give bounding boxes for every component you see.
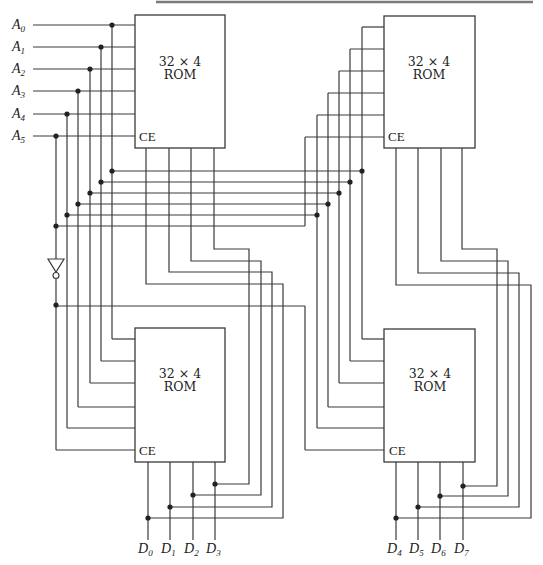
rom-top-left-type: ROM: [164, 67, 197, 82]
rom-top-left-ce-label: CE: [139, 129, 156, 144]
rom-bottom-left-ce-label: CE: [139, 443, 156, 458]
rom-top-left: 32 × 4 ROM CE: [135, 15, 225, 148]
address-labels: A0 A1 A2 A3 A4 A5: [11, 17, 26, 145]
bottom-left-rom-output-wires: [148, 462, 215, 540]
bottom-right-rom-output-wires: [396, 462, 463, 540]
rom-top-right-ce-label: CE: [388, 129, 405, 144]
bottom-left-rom-input-wires: [56, 339, 135, 450]
right-address-bus: [305, 27, 362, 450]
label-a2: A2: [11, 61, 26, 78]
label-a5: A5: [11, 128, 26, 145]
rom-expansion-diagram: A0 A1 A2 A3 A4 A5: [0, 0, 543, 565]
rom-bottom-right-type: ROM: [414, 379, 447, 394]
label-d7: D7: [453, 541, 469, 558]
rom-top-right-type: ROM: [413, 67, 446, 82]
rom-top-right: 32 × 4 ROM CE: [384, 16, 475, 148]
rom-bottom-right: 32 × 4 ROM CE: [384, 329, 475, 462]
label-d1: D1: [160, 541, 176, 558]
label-d6: D6: [430, 541, 446, 558]
label-d5: D5: [408, 541, 424, 558]
label-a1: A1: [11, 39, 25, 56]
label-d4: D4: [386, 541, 402, 558]
rom-bottom-left-type: ROM: [164, 379, 197, 394]
label-a4: A4: [11, 106, 26, 123]
data-output-labels: D0 D1 D2 D3 D4 D5 D6 D7: [137, 541, 469, 558]
label-d2: D2: [183, 541, 199, 558]
label-a0: A0: [11, 17, 26, 34]
label-a3: A3: [11, 83, 26, 100]
address-input-wires: [33, 25, 135, 136]
label-d0: D0: [137, 541, 153, 558]
rom-bottom-right-ce-label: CE: [389, 443, 406, 458]
label-d3: D3: [205, 541, 221, 558]
left-address-bus: [56, 25, 112, 450]
inverter-icon: [48, 259, 64, 279]
rom-bottom-left: 32 × 4 ROM CE: [135, 328, 225, 462]
crossover-address-wires: [56, 171, 362, 306]
